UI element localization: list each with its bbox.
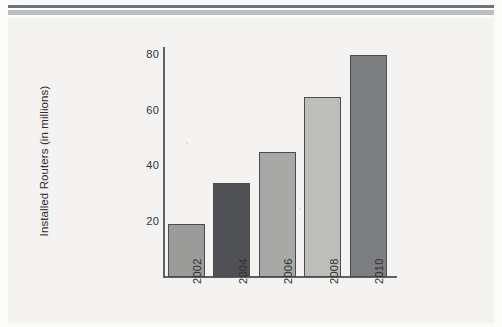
print-speck — [299, 208, 301, 210]
y-axis-tick-label: 80 — [133, 48, 159, 60]
x-axis-tick-label-2010: 2010 — [373, 258, 385, 284]
y-axis-tick: 60 — [129, 104, 159, 117]
x-axis-tick-label-2002: 2002 — [191, 258, 203, 284]
y-axis-tick: 40 — [129, 159, 159, 172]
y-axis-tick: 80 — [129, 48, 159, 61]
x-axis-tick-label-2006: 2006 — [282, 258, 294, 284]
y-axis-tick: 20 — [129, 215, 159, 228]
y-axis-tick-label: 40 — [133, 159, 159, 171]
y-axis-line — [163, 47, 165, 278]
figure-page: Installed Routers (in millions) 20406080… — [0, 0, 502, 327]
y-axis-title: Installed Routers (in millions) — [38, 61, 50, 261]
bar-2010 — [350, 55, 387, 277]
bar-2008 — [304, 97, 341, 277]
y-axis-tick-label: 60 — [133, 104, 159, 116]
bar-chart: Installed Routers (in millions) 20406080… — [0, 0, 502, 327]
y-axis-tick-label: 20 — [133, 215, 159, 227]
x-axis-tick-label-2008: 2008 — [328, 258, 340, 284]
print-speck — [186, 142, 188, 144]
x-axis-tick-label-2004: 2004 — [237, 258, 249, 284]
